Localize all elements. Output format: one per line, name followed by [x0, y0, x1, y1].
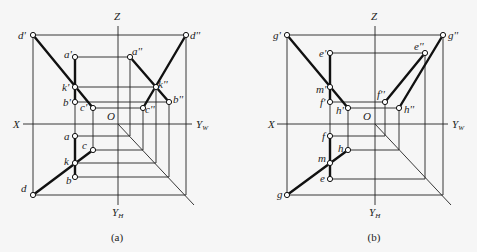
point-marker: [345, 105, 350, 110]
point-label: h': [336, 104, 345, 116]
point-marker: [30, 32, 35, 37]
point-marker: [440, 32, 445, 37]
yh-axis-label: YH: [112, 206, 124, 220]
diagonal-45-line: [375, 124, 451, 205]
point-label: m': [316, 83, 327, 95]
point-marker: [284, 192, 289, 197]
point-marker: [72, 99, 77, 104]
point-marker: [90, 147, 95, 152]
point-marker: [90, 105, 95, 110]
point-label: d': [18, 29, 27, 41]
point-label: a'': [132, 45, 143, 57]
point-label: c: [82, 139, 87, 151]
point-label: c': [80, 101, 88, 113]
point-label: e: [320, 172, 325, 184]
point-marker: [327, 50, 332, 55]
point-label: e': [319, 47, 327, 59]
point-label: k: [64, 155, 70, 167]
point-label: k'': [158, 78, 168, 90]
point-label: k': [62, 81, 70, 93]
point-label: f: [322, 130, 327, 142]
point-label: d'': [190, 29, 201, 41]
yw-axis-label: YW: [452, 118, 465, 132]
point-marker: [327, 176, 332, 181]
x-axis-label: X: [12, 118, 21, 130]
point-marker: [345, 147, 350, 152]
x-axis-label: X: [267, 118, 276, 130]
point-marker: [327, 133, 332, 138]
point-label: h'': [404, 103, 415, 115]
point-label: d: [21, 182, 27, 194]
point-marker: [72, 84, 77, 89]
projection-diagram: d'a'k'b'c'd''a''k''b''c''ackbdXZOYWYH(a)…: [0, 0, 477, 252]
point-marker: [382, 99, 387, 104]
point-label: a: [64, 130, 70, 142]
point-label: g: [277, 188, 283, 200]
point-marker: [72, 54, 77, 59]
point-marker: [327, 160, 332, 165]
point-marker: [72, 160, 77, 165]
point-label: b: [66, 174, 72, 186]
point-marker: [396, 105, 401, 110]
panel-caption: (b): [368, 231, 381, 244]
segment-line: [287, 35, 348, 108]
z-axis-label: Z: [371, 10, 378, 22]
point-marker: [166, 99, 171, 104]
point-label: a': [64, 48, 73, 60]
yh-axis-label: YH: [369, 206, 381, 220]
panel-caption: (a): [111, 231, 124, 244]
point-marker: [327, 99, 332, 104]
segment-line: [385, 53, 425, 102]
point-marker: [284, 32, 289, 37]
point-marker: [183, 32, 188, 37]
origin-label: O: [107, 110, 115, 122]
point-label: b'': [173, 93, 184, 105]
point-label: g'': [448, 29, 459, 41]
yw-axis-label: YW: [196, 118, 209, 132]
point-marker: [30, 192, 35, 197]
panel-b: g'e'm'f'h'g''e''f''h''fhmegXZOYWYH(b): [267, 10, 465, 244]
point-label: m: [318, 152, 326, 164]
point-label: g': [273, 29, 282, 41]
point-marker: [72, 174, 77, 179]
point-label: c'': [145, 103, 155, 115]
point-label: e'': [414, 40, 424, 52]
point-label: f'': [377, 88, 385, 100]
point-marker: [72, 133, 77, 138]
point-label: h: [338, 142, 344, 154]
panel-a: d'a'k'b'c'd''a''k''b''c''ackbdXZOYWYH(a): [12, 10, 209, 244]
point-marker: [327, 84, 332, 89]
z-axis-label: Z: [114, 10, 121, 22]
origin-label: O: [363, 110, 371, 122]
point-label: f': [320, 96, 326, 108]
segment-line: [33, 150, 93, 195]
point-label: b': [63, 96, 72, 108]
